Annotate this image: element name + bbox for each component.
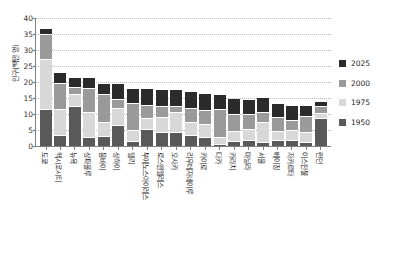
bar-segment-1950[interactable] — [156, 132, 168, 146]
bar-column[interactable] — [112, 18, 124, 146]
bar-column[interactable] — [170, 18, 182, 146]
bar-segment-2025[interactable] — [199, 94, 211, 110]
bar-segment-1975[interactable] — [243, 129, 255, 140]
legend-item[interactable]: 1975 — [339, 99, 370, 107]
bar-segment-1975[interactable] — [257, 122, 269, 142]
bar-column[interactable] — [199, 18, 211, 146]
y-axis-tick-label: 35 — [23, 30, 33, 39]
bar-segment-2000[interactable] — [185, 108, 197, 121]
bar-segment-2000[interactable] — [286, 120, 298, 130]
bar-segment-1975[interactable] — [156, 117, 168, 132]
bar-segment-1975[interactable] — [69, 94, 81, 106]
bar-segment-2025[interactable] — [54, 73, 66, 83]
bar-segment-2000[interactable] — [156, 106, 168, 118]
bar-column[interactable] — [54, 18, 66, 146]
bar-segment-1950[interactable] — [98, 136, 110, 146]
bar-segment-2025[interactable] — [170, 90, 182, 106]
bar-segment-2000[interactable] — [141, 105, 153, 118]
bar-segment-2000[interactable] — [257, 112, 269, 122]
bar-segment-1950[interactable] — [141, 129, 153, 146]
bar-segment-2025[interactable] — [243, 100, 255, 114]
bar-segment-2000[interactable] — [112, 99, 124, 108]
bar-segment-2000[interactable] — [54, 83, 66, 110]
bar-segment-2000[interactable] — [214, 109, 226, 137]
x-axis-label: 베이징 — [272, 152, 282, 170]
bar-segment-2000[interactable] — [69, 87, 81, 94]
bar-segment-1950[interactable] — [54, 135, 66, 146]
bar-segment-2000[interactable] — [98, 94, 110, 121]
bar-segment-1950[interactable] — [40, 109, 52, 146]
bar-column[interactable] — [300, 18, 312, 146]
bar-segment-2025[interactable] — [127, 89, 139, 104]
bar-segment-2000[interactable] — [83, 88, 95, 112]
bar-segment-1975[interactable] — [286, 130, 298, 141]
bar-segment-1975[interactable] — [54, 109, 66, 135]
bar-segment-2025[interactable] — [98, 84, 110, 94]
x-axis-label-cell: 런던 — [314, 152, 326, 244]
bar-segment-2000[interactable] — [300, 116, 312, 133]
bar-segment-1950[interactable] — [315, 118, 327, 146]
bar-segment-1975[interactable] — [300, 132, 312, 142]
bar-segment-2025[interactable] — [300, 106, 312, 116]
bar-segment-2025[interactable] — [214, 95, 226, 109]
bar-column[interactable] — [272, 18, 284, 146]
bar-segment-2025[interactable] — [257, 98, 269, 112]
bar-column[interactable] — [69, 18, 81, 146]
bar-segment-2000[interactable] — [228, 114, 240, 132]
legend-item[interactable]: 2000 — [339, 80, 370, 88]
bar-column[interactable] — [257, 18, 269, 146]
bar-segment-1950[interactable] — [83, 137, 95, 146]
bar-segment-2025[interactable] — [228, 99, 240, 113]
bar-segment-2025[interactable] — [272, 104, 284, 118]
legend-item[interactable]: 1950 — [339, 119, 370, 127]
bar-segment-1975[interactable] — [83, 112, 95, 137]
bar-segment-2000[interactable] — [272, 117, 284, 130]
bar-column[interactable] — [98, 18, 110, 146]
bar-segment-2000[interactable] — [243, 114, 255, 130]
bar-segment-1975[interactable] — [170, 112, 182, 132]
bar-segment-2025[interactable] — [141, 89, 153, 105]
bar-column[interactable] — [156, 18, 168, 146]
bar-segment-1950[interactable] — [199, 137, 211, 146]
bar-segment-1975[interactable] — [185, 122, 197, 136]
bar-segment-2000[interactable] — [40, 34, 52, 59]
legend-item[interactable]: 2025 — [339, 60, 370, 68]
legend-swatch — [339, 119, 346, 126]
bar-column[interactable] — [141, 18, 153, 146]
bar-column[interactable] — [315, 18, 327, 146]
bar-column[interactable] — [40, 18, 52, 146]
bar-column[interactable] — [228, 18, 240, 146]
bar-segment-1950[interactable] — [185, 135, 197, 146]
bar-column[interactable] — [243, 18, 255, 146]
bar-segment-1975[interactable] — [40, 59, 52, 109]
bar-segment-2025[interactable] — [69, 78, 81, 87]
bar-column[interactable] — [127, 18, 139, 146]
bar-segment-1975[interactable] — [228, 131, 240, 141]
x-axis-label-cell: 자카르타 — [285, 152, 297, 244]
bar-segment-1950[interactable] — [170, 132, 182, 146]
x-axis-labels: 도쿄멕시코시티뉴욕상파울루뭄바이상하이델리부에노스아이레스로스앤젤레스오사카리우… — [35, 152, 330, 244]
x-axis-tickmark — [112, 146, 124, 150]
bar-segment-1975[interactable] — [127, 130, 139, 141]
bar-segment-2025[interactable] — [156, 90, 168, 106]
bar-segment-1950[interactable] — [69, 106, 81, 146]
x-axis-label-cell: 베이징 — [271, 152, 283, 244]
bar-column[interactable] — [83, 18, 95, 146]
bar-column[interactable] — [185, 18, 197, 146]
bar-segment-2025[interactable] — [83, 78, 95, 88]
bar-segment-2025[interactable] — [185, 92, 197, 108]
bar-segment-1975[interactable] — [199, 124, 211, 137]
bar-segment-1950[interactable] — [112, 125, 124, 146]
bar-segment-2000[interactable] — [315, 106, 327, 113]
bar-segment-1975[interactable] — [272, 131, 284, 140]
bar-segment-1975[interactable] — [141, 118, 153, 129]
bar-segment-2025[interactable] — [286, 106, 298, 120]
bar-segment-2000[interactable] — [199, 110, 211, 123]
bar-column[interactable] — [286, 18, 298, 146]
bar-segment-1975[interactable] — [98, 122, 110, 136]
bar-segment-2025[interactable] — [112, 84, 124, 98]
bar-segment-2000[interactable] — [127, 103, 139, 129]
bar-column[interactable] — [214, 18, 226, 146]
x-axis-label-cell: 마닐라 — [242, 152, 254, 244]
bar-segment-1975[interactable] — [112, 108, 124, 126]
